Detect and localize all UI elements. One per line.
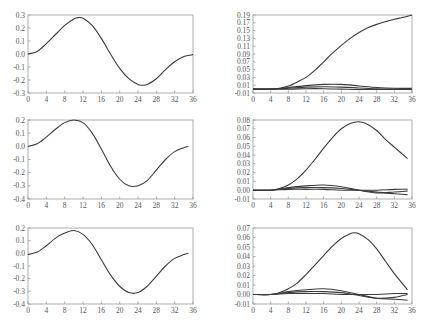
plot-frame	[28, 228, 193, 304]
y-tick-label: 0.03	[237, 262, 250, 271]
y-tick-label: 0.07	[237, 57, 250, 66]
x-tick-label: 8	[286, 201, 290, 210]
y-tick-label: -0.3	[13, 181, 25, 190]
x-tick-label: 36	[189, 95, 197, 104]
y-tick-label: 0.09	[237, 50, 250, 59]
x-tick-label: 16	[320, 201, 328, 210]
x-tick-label: 20	[338, 306, 346, 315]
x-tick-label: 28	[153, 306, 161, 315]
y-tick-label: -0.01	[234, 89, 250, 98]
y-tick-label: 0.05	[237, 243, 250, 252]
y-tick-label: -0.1	[13, 155, 25, 164]
x-tick-label: 12	[302, 306, 310, 315]
series-line-s3	[253, 292, 408, 299]
y-tick-label: 0.3	[16, 11, 26, 20]
x-tick-label: 0	[251, 201, 255, 210]
x-tick-label: 20	[338, 95, 346, 104]
x-tick-label: 20	[116, 201, 124, 210]
y-tick-label: 0.03	[237, 73, 250, 82]
x-tick-label: 16	[98, 306, 106, 315]
x-tick-label: 24	[355, 306, 363, 315]
plot-frame	[253, 15, 412, 93]
x-tick-label: 12	[302, 201, 310, 210]
y-tick-label: 0.01	[237, 177, 250, 186]
x-tick-label: 12	[79, 95, 87, 104]
x-tick-label: 8	[63, 201, 67, 210]
figure: -0.3-0.2-0.10.00.10.20.30481216202428323…	[0, 0, 426, 323]
y-tick-label: 0.06	[237, 233, 250, 242]
y-tick-label: -0.2	[13, 274, 25, 283]
y-tick-label: 0.01	[237, 81, 250, 90]
y-tick-label: 0.06	[237, 133, 250, 142]
x-tick-label: 32	[391, 95, 399, 104]
y-tick-label: 0.00	[237, 186, 250, 195]
y-tick-label: 0.13	[237, 34, 250, 43]
x-tick-label: 24	[134, 95, 142, 104]
series-line-s1	[253, 15, 412, 89]
x-tick-label: 20	[116, 306, 124, 315]
y-tick-label: 0.07	[237, 124, 250, 133]
y-tick-label: 0.2	[16, 116, 26, 125]
y-tick-label: 0.2	[16, 24, 26, 33]
x-tick-label: 8	[63, 95, 67, 104]
x-tick-label: 24	[134, 306, 142, 315]
y-tick-label: 0.02	[237, 168, 250, 177]
x-tick-label: 20	[338, 201, 346, 210]
panel-row2-left: -0.4-0.3-0.2-0.10.00.10.2048121620242832…	[13, 116, 197, 210]
x-tick-label: 32	[171, 95, 179, 104]
y-tick-label: 0.11	[237, 42, 250, 51]
panel-row2-right: -0.010.000.010.020.030.040.050.060.070.0…	[234, 116, 416, 210]
x-tick-label: 16	[320, 95, 328, 104]
x-tick-label: 0	[26, 306, 30, 315]
y-tick-label: 0.07	[237, 224, 250, 233]
y-tick-label: -0.3	[13, 89, 25, 98]
y-tick-label: -0.01	[234, 195, 250, 204]
y-tick-label: 0.0	[16, 50, 26, 59]
y-tick-label: -0.4	[13, 195, 25, 204]
y-tick-label: 0.1	[16, 37, 26, 46]
x-tick-label: 28	[153, 95, 161, 104]
y-tick-label: 0.02	[237, 271, 250, 280]
x-tick-label: 20	[116, 95, 124, 104]
y-tick-label: 0.05	[237, 65, 250, 74]
y-tick-label: 0.1	[16, 129, 26, 138]
x-tick-label: 8	[63, 306, 67, 315]
x-tick-label: 36	[189, 306, 197, 315]
y-tick-label: 0.01	[237, 281, 250, 290]
y-tick-label: 0.19	[237, 11, 250, 20]
x-tick-label: 4	[269, 95, 273, 104]
x-tick-label: 32	[171, 306, 179, 315]
x-tick-label: 8	[286, 306, 290, 315]
x-tick-label: 4	[44, 306, 48, 315]
x-tick-label: 28	[373, 201, 381, 210]
panel-row1-left: -0.3-0.2-0.10.00.10.20.30481216202428323…	[13, 11, 197, 104]
x-tick-label: 28	[373, 95, 381, 104]
y-tick-label: 0.0	[16, 142, 26, 151]
y-tick-label: -0.1	[13, 63, 25, 72]
y-tick-label: 0.17	[237, 18, 250, 27]
x-tick-label: 24	[134, 201, 142, 210]
y-tick-label: 0.00	[237, 290, 250, 299]
x-tick-label: 24	[355, 95, 363, 104]
y-tick-label: -0.2	[13, 168, 25, 177]
panel-row1-right: -0.010.010.030.050.070.090.110.130.150.1…	[234, 11, 416, 104]
y-tick-label: 0.04	[237, 252, 250, 261]
series-line-s4	[253, 189, 408, 190]
x-tick-label: 36	[408, 306, 416, 315]
x-tick-label: 0	[251, 306, 255, 315]
y-tick-label: -0.3	[13, 287, 25, 296]
y-tick-label: -0.4	[13, 300, 25, 309]
x-tick-label: 32	[391, 201, 399, 210]
y-tick-label: 0.0	[16, 249, 26, 258]
y-tick-label: -0.2	[13, 76, 25, 85]
series-line-s1	[253, 122, 408, 191]
x-tick-label: 24	[355, 201, 363, 210]
plot-frame	[253, 120, 412, 199]
series-line-response	[28, 17, 193, 85]
x-tick-label: 0	[26, 201, 30, 210]
x-tick-label: 4	[44, 95, 48, 104]
y-tick-label: 0.03	[237, 159, 250, 168]
x-tick-label: 32	[391, 306, 399, 315]
y-tick-label: 0.08	[237, 116, 250, 125]
x-tick-label: 12	[302, 95, 310, 104]
